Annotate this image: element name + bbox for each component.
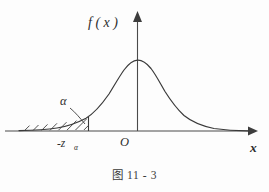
origin-label: O [120,135,129,149]
rejection-region-hatching [25,119,89,131]
x-axis-label: x [249,140,257,155]
alpha-area-label: α [60,94,67,108]
critical-value-subscript: α [74,143,79,152]
y-axis-label: f ( x ) [88,15,118,31]
critical-value-label-group: -z α [57,137,79,152]
y-axis-group [133,11,142,131]
y-axis-arrowhead [133,11,142,22]
normal-density-curve [19,60,248,131]
figure-caption: 图 11 - 3 [0,166,269,182]
figure-container: f ( x ) x O α -z α 图 11 - 3 [0,0,269,192]
x-axis-arrowhead [248,127,258,136]
critical-value-label: -z [57,137,66,149]
x-axis-group [5,127,258,136]
normal-distribution-diagram: f ( x ) x O α -z α [0,0,269,192]
